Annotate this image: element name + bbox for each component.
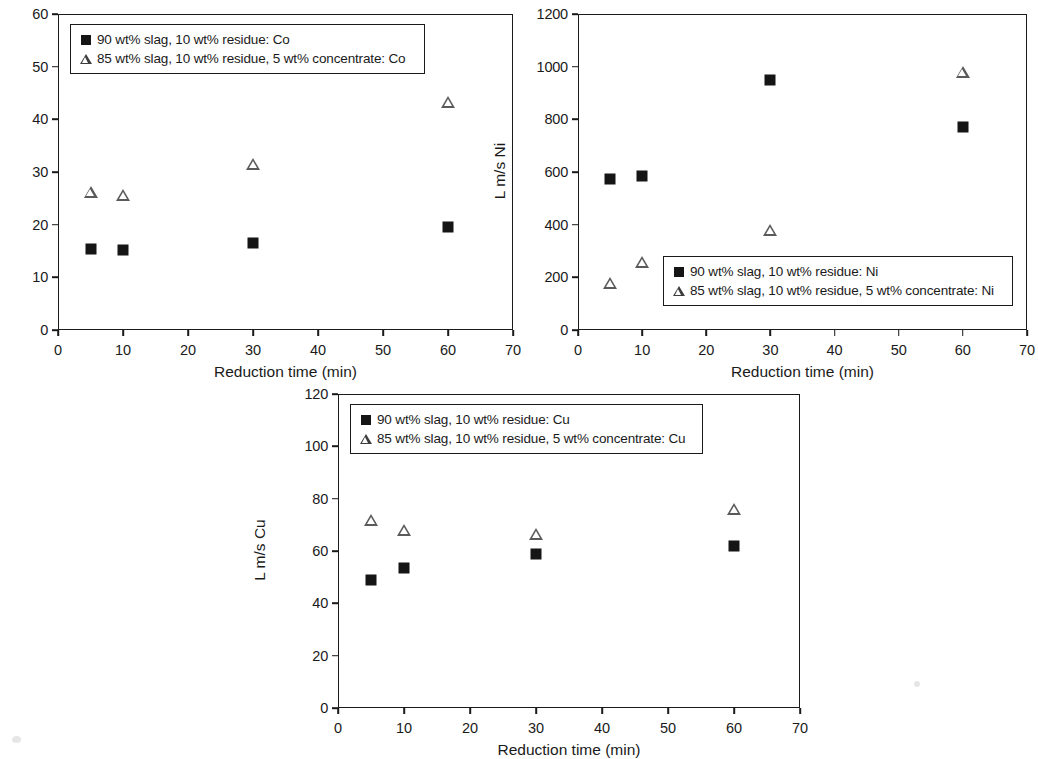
legend-label: 90 wt% slag, 10 wt% residue: Cu — [377, 413, 570, 427]
x-tick-mark-cu — [469, 708, 471, 714]
legend-triangle-icon — [358, 434, 374, 444]
triangle-marker — [397, 524, 411, 536]
y-tick-mark-cu — [332, 550, 338, 552]
x-tick-label-cu: 40 — [594, 720, 610, 736]
x-tick-mark-cu — [337, 708, 339, 714]
data-point-triangle — [529, 528, 543, 540]
y-tick-label-cu: 120 — [266, 386, 328, 402]
square-marker — [729, 540, 740, 551]
x-tick-label-cu: 30 — [528, 720, 544, 736]
y-tick-mark-cu — [332, 393, 338, 395]
x-tick-label-cu: 0 — [334, 720, 342, 736]
y-tick-label-cu: 0 — [266, 700, 328, 716]
y-tick-mark-cu — [332, 655, 338, 657]
triangle-marker — [727, 503, 741, 515]
y-tick-label-cu: 40 — [266, 595, 328, 611]
x-tick-mark-cu — [799, 708, 801, 714]
x-tick-mark-cu — [535, 708, 537, 714]
x-tick-label-cu: 10 — [396, 720, 412, 736]
y-tick-mark-cu — [332, 603, 338, 605]
scan-artifact — [914, 681, 920, 687]
data-point-square — [366, 574, 377, 585]
legend-row: 90 wt% slag, 10 wt% residue: Cu — [358, 410, 694, 429]
x-tick-label-cu: 50 — [660, 720, 676, 736]
data-point-triangle — [364, 514, 378, 526]
data-point-square — [729, 540, 740, 551]
x-tick-mark-cu — [403, 708, 405, 714]
y-tick-label-cu: 60 — [266, 543, 328, 559]
x-tick-mark-cu — [601, 708, 603, 714]
triangle-glyph — [360, 434, 372, 444]
y-axis-label-cu: L m/s Cu — [251, 470, 269, 630]
scan-artifact — [12, 736, 21, 743]
data-point-triangle — [397, 524, 411, 536]
square-glyph — [361, 415, 371, 425]
legend-square-icon — [358, 415, 374, 425]
x-axis-label-cu: Reduction time (min) — [338, 741, 800, 759]
y-tick-mark-cu — [332, 498, 338, 500]
x-tick-label-cu: 70 — [792, 720, 808, 736]
y-tick-label-cu: 100 — [266, 438, 328, 454]
square-marker — [366, 574, 377, 585]
triangle-marker — [529, 528, 543, 540]
x-tick-mark-cu — [733, 708, 735, 714]
x-tick-label-cu: 60 — [726, 720, 742, 736]
square-marker — [531, 548, 542, 559]
square-marker — [399, 563, 410, 574]
y-tick-mark-cu — [332, 446, 338, 448]
legend-cu: 90 wt% slag, 10 wt% residue: Cu85 wt% sl… — [350, 404, 703, 454]
data-point-triangle — [727, 503, 741, 515]
triangle-marker — [364, 514, 378, 526]
y-tick-label-cu: 20 — [266, 648, 328, 664]
data-point-square — [531, 548, 542, 559]
x-tick-mark-cu — [667, 708, 669, 714]
legend-row: 85 wt% slag, 10 wt% residue, 5 wt% conce… — [358, 429, 694, 448]
x-tick-label-cu: 20 — [462, 720, 478, 736]
data-point-square — [399, 563, 410, 574]
legend-label: 85 wt% slag, 10 wt% residue, 5 wt% conce… — [377, 432, 685, 446]
y-tick-label-cu: 80 — [266, 491, 328, 507]
